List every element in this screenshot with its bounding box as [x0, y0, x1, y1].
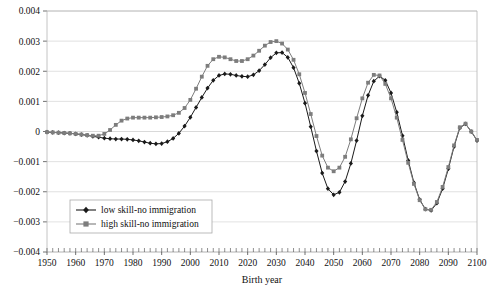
data-point: [475, 138, 479, 142]
data-point: [171, 113, 175, 117]
data-point: [286, 48, 290, 52]
data-point: [355, 116, 359, 120]
xtick-label-13: 2080: [410, 258, 429, 268]
data-point: [355, 138, 359, 143]
xtick-label-2: 1970: [95, 258, 114, 268]
data-point: [160, 115, 164, 119]
data-point: [389, 96, 393, 100]
data-point: [332, 169, 336, 173]
data-point: [360, 96, 364, 100]
ytick-label-0: −0.004: [13, 247, 40, 257]
data-point: [469, 130, 473, 134]
data-point: [297, 72, 301, 76]
data-point: [62, 131, 66, 135]
data-point: [314, 149, 318, 154]
data-point: [337, 190, 341, 195]
data-point: [429, 208, 433, 212]
data-point: [160, 141, 164, 146]
data-point: [309, 112, 313, 116]
data-point: [97, 134, 101, 138]
data-point: [228, 72, 232, 77]
data-point: [263, 44, 267, 48]
data-point: [102, 132, 106, 136]
data-point: [229, 57, 233, 61]
data-point: [142, 140, 146, 145]
legend-label: high skill-no immigration: [101, 219, 199, 229]
xtick-label-15: 2100: [468, 258, 487, 268]
data-point: [177, 111, 181, 115]
data-point: [446, 165, 450, 169]
xtick-label-14: 2090: [439, 258, 458, 268]
data-point: [292, 58, 296, 62]
data-point: [137, 116, 141, 120]
xtick-label-8: 2030: [267, 258, 286, 268]
data-point: [412, 182, 416, 186]
xtick-label-12: 2070: [382, 258, 401, 268]
data-point: [246, 74, 250, 79]
data-point: [315, 134, 319, 138]
xtick-label-4: 1990: [152, 258, 171, 268]
data-point: [200, 75, 204, 79]
ytick-label-2: −0.002: [13, 187, 40, 197]
data-point: [320, 154, 324, 158]
data-point: [240, 59, 244, 63]
data-point: [366, 93, 370, 98]
data-point: [137, 138, 141, 143]
data-point: [378, 74, 382, 78]
data-point: [183, 106, 187, 110]
data-point: [120, 119, 124, 123]
ytick-label-7: 0.003: [19, 37, 41, 47]
data-point: [131, 116, 135, 120]
ytick-label-3: −0.001: [13, 157, 40, 167]
data-point: [320, 171, 324, 176]
data-point: [401, 138, 405, 142]
data-point: [343, 155, 347, 159]
data-point: [383, 82, 387, 86]
data-point: [424, 207, 428, 211]
data-point: [252, 54, 256, 58]
data-point: [114, 137, 118, 142]
data-point: [395, 116, 399, 120]
xtick-label-3: 1980: [124, 258, 143, 268]
data-point: [297, 81, 301, 86]
data-point: [194, 87, 198, 91]
data-point: [143, 116, 147, 120]
legend-label: low skill-no immigration: [101, 205, 196, 215]
data-point: [349, 137, 353, 141]
data-point: [274, 39, 278, 43]
data-point: [148, 141, 152, 146]
data-point: [68, 131, 72, 135]
data-point: [234, 59, 238, 63]
series-1: [45, 39, 479, 212]
x-axis-title: Birth year: [242, 274, 283, 285]
ytick-label-8: 0.004: [19, 6, 41, 16]
data-point: [217, 55, 221, 59]
data-point: [366, 81, 370, 85]
ytick-label-4: 0: [35, 127, 40, 137]
xtick-label-7: 2020: [238, 258, 257, 268]
data-point: [257, 49, 261, 53]
data-point: [74, 132, 78, 136]
data-point: [211, 57, 215, 61]
data-point: [309, 124, 313, 129]
line-chart-svg: −0.004−0.003−0.002−0.00100.0010.0020.003…: [0, 0, 493, 287]
xtick-label-5: 2000: [181, 258, 200, 268]
data-point: [360, 113, 364, 118]
xtick-label-0: 1950: [38, 258, 57, 268]
data-point: [91, 134, 95, 138]
data-point: [418, 198, 422, 202]
data-point: [57, 131, 61, 135]
data-point: [166, 115, 170, 119]
ytick-label-1: −0.003: [13, 217, 40, 227]
data-point: [131, 138, 135, 143]
data-point: [246, 57, 250, 61]
data-point: [240, 74, 244, 79]
data-point: [372, 73, 376, 77]
data-point: [165, 139, 169, 144]
data-point: [280, 42, 284, 46]
xtick-label-11: 2060: [353, 258, 372, 268]
data-point: [303, 91, 307, 95]
chart-figure: −0.004−0.003−0.002−0.00100.0010.0020.003…: [0, 0, 493, 287]
data-point: [234, 73, 238, 78]
data-point: [125, 137, 129, 142]
